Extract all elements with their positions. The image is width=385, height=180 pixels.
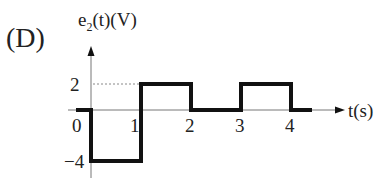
waveform-line — [76, 84, 312, 161]
waveform-plot — [0, 0, 385, 180]
x-axis-arrow-icon — [335, 107, 345, 114]
y-axis-arrow-icon — [88, 46, 95, 56]
